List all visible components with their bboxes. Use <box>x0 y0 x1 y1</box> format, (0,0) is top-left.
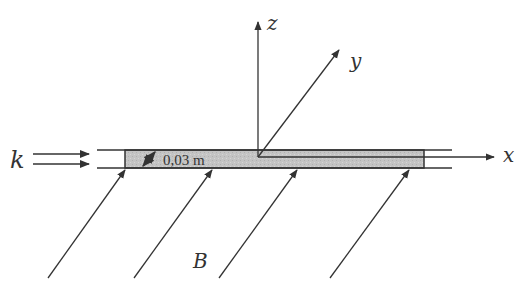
coordinate-axes <box>258 22 494 157</box>
y-axis <box>258 50 339 157</box>
diagram-canvas: k 0,03 m z y x B <box>0 0 525 288</box>
y-axis-label: y <box>349 49 362 73</box>
z-axis-label: z <box>266 11 278 35</box>
x-axis-label: x <box>503 143 514 167</box>
field-label: B <box>192 249 208 273</box>
current-label: k <box>10 146 25 174</box>
current-arrows <box>33 154 89 164</box>
conducting-strip <box>97 150 452 168</box>
width-dimension-label: 0,03 m <box>163 152 205 168</box>
magnetic-field-arrows <box>48 170 409 278</box>
